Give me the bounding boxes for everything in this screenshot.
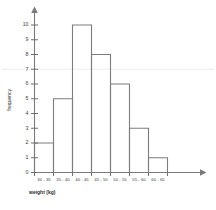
y-tick-label: 9 — [26, 36, 29, 42]
histogram-bar — [92, 55, 111, 173]
histogram-bar — [149, 158, 168, 173]
x-tick-label: 55 - 60 — [132, 177, 146, 182]
x-tick-label: 40 - 45 — [75, 177, 89, 182]
histogram-bar — [130, 128, 149, 172]
y-tick-labels-group: 012345678910 — [23, 21, 29, 175]
y-axis-arrow-icon — [31, 7, 38, 14]
y-tick-label: 10 — [23, 21, 29, 27]
y-axis-title: frequency — [6, 89, 12, 111]
x-tick-label: 60 - 65 — [151, 177, 165, 182]
x-tick-label: 50 - 55 — [113, 177, 127, 182]
chart-canvas: 012345678910 30 - 3535 - 4040 - 4545 - 5… — [0, 0, 216, 210]
x-axis-arrow-icon — [200, 169, 207, 176]
bars-group — [35, 25, 168, 173]
y-tick-label: 3 — [26, 125, 29, 131]
x-tick-label: 35 - 40 — [56, 177, 70, 182]
histogram-bar — [73, 25, 92, 173]
histogram-bar — [54, 99, 73, 173]
y-tick-label: 8 — [26, 51, 29, 57]
y-tick-label: 4 — [26, 110, 29, 116]
y-tick-label: 0 — [26, 169, 29, 175]
x-axis-title: weight (kg) — [28, 189, 56, 195]
histogram-bar — [111, 84, 130, 173]
x-tick-labels-group: 30 - 3535 - 4040 - 4545 - 5050 - 5555 - … — [37, 177, 165, 182]
y-tick-label: 1 — [26, 154, 29, 160]
histogram-chart: 012345678910 30 - 3535 - 4040 - 4545 - 5… — [0, 0, 216, 210]
y-tick-label: 7 — [26, 66, 29, 72]
x-tick-label: 30 - 35 — [37, 177, 51, 182]
y-tick-label: 6 — [26, 80, 29, 86]
y-tick-label: 2 — [26, 139, 29, 145]
y-tick-label: 5 — [26, 95, 29, 101]
x-tick-label: 45 - 50 — [94, 177, 108, 182]
